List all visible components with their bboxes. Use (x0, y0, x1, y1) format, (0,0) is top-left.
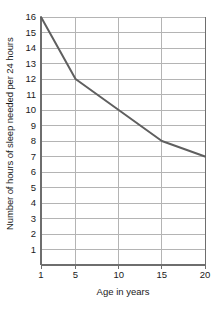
x-axis-tick-labels: 15101520 (41, 270, 205, 283)
x-tick-label: 1 (38, 270, 43, 280)
y-tick-label: 12 (25, 74, 36, 84)
y-tick-label: 7 (31, 152, 36, 162)
y-axis-tick-labels: 12345678910111213141516 (18, 11, 38, 263)
y-tick-label: 8 (31, 136, 36, 146)
x-axis-title: Age in years (41, 287, 205, 297)
y-axis-title: Number of hours of sleep needed per 24 h… (0, 0, 18, 268)
y-tick-label: 13 (25, 59, 36, 69)
data-series-group (41, 17, 205, 157)
plot-svg (41, 17, 205, 265)
y-tick-label: 15 (25, 28, 36, 38)
data-line-sleep-needed (41, 17, 205, 157)
y-tick-label: 14 (25, 43, 36, 53)
x-tick-label: 5 (73, 270, 78, 280)
x-tick-label: 20 (200, 270, 211, 280)
x-tick-label: 15 (157, 270, 168, 280)
y-tick-label: 11 (26, 90, 36, 100)
y-tick-label: 9 (31, 121, 36, 131)
y-tick-label: 4 (31, 198, 36, 208)
y-tick-label: 2 (31, 229, 36, 239)
y-tick-label: 3 (31, 214, 36, 224)
y-tick-label: 1 (31, 245, 36, 255)
sleep-hours-line-chart: Number of hours of sleep needed per 24 h… (0, 0, 220, 315)
y-tick-label: 5 (31, 183, 36, 193)
horizontal-gridlines (41, 17, 205, 250)
y-tick-label: 10 (25, 105, 36, 115)
plot-area (41, 17, 205, 265)
y-axis-title-text: Number of hours of sleep needed per 24 h… (4, 38, 14, 231)
y-tick-label: 6 (31, 167, 36, 177)
x-tick-label: 10 (113, 270, 124, 280)
y-tick-label: 16 (25, 12, 36, 22)
